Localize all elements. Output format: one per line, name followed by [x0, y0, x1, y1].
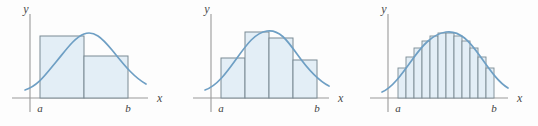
- riemann-rectangle: [470, 48, 478, 98]
- panel-four-rectangles: y x a b: [179, 0, 358, 126]
- x-axis-label: x: [337, 91, 344, 105]
- riemann-rectangle: [269, 38, 293, 98]
- x-axis-label: x: [156, 91, 163, 105]
- panel-two-rectangles: y x a b: [0, 0, 179, 126]
- tick-label-b: b: [125, 102, 131, 114]
- riemann-rectangle: [40, 36, 84, 98]
- riemann-rectangle: [422, 41, 430, 98]
- riemann-rectangle: [438, 33, 446, 98]
- riemann-rectangle: [462, 41, 470, 98]
- panel-twelve-rectangles: y x a b: [358, 0, 537, 126]
- tick-label-a: a: [395, 102, 401, 114]
- tick-label-a: a: [37, 102, 43, 114]
- y-axis-label: y: [22, 2, 29, 16]
- riemann-rectangle: [446, 33, 454, 98]
- tick-label-a: a: [218, 102, 224, 114]
- riemann-sum-figure-row: y x a b y x a b: [0, 0, 538, 126]
- riemann-rectangle: [454, 36, 462, 98]
- y-axis-label: y: [380, 2, 387, 16]
- tick-label-b: b: [491, 102, 497, 114]
- tick-label-b: b: [314, 102, 320, 114]
- riemann-rectangle: [430, 36, 438, 98]
- x-axis-label: x: [516, 91, 523, 105]
- y-axis-label: y: [203, 2, 210, 16]
